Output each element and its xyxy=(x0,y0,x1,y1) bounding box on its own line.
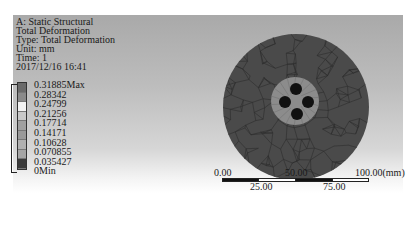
mesh-edge xyxy=(232,64,233,65)
mesh-edge xyxy=(364,70,368,83)
hole-top[interactable] xyxy=(290,83,302,95)
mesh-edge xyxy=(221,128,226,135)
mesh-edge xyxy=(363,68,364,69)
mesh-edge xyxy=(257,36,262,41)
mesh-edge xyxy=(370,116,371,124)
mesh-edge xyxy=(219,113,221,128)
mesh-edge xyxy=(233,52,240,62)
mesh-edge xyxy=(232,61,233,64)
mesh-edge xyxy=(371,108,374,116)
mesh-edge xyxy=(310,30,326,36)
scale-label-50: 50.00 xyxy=(285,168,308,178)
mesh-edge xyxy=(276,183,296,185)
mesh-edge xyxy=(372,108,375,109)
mesh-edge xyxy=(219,107,220,114)
scale-label-75: 75.00 xyxy=(323,182,346,192)
mesh-edge xyxy=(224,75,226,86)
mesh-edge xyxy=(359,142,364,148)
mesh-edge xyxy=(328,36,340,42)
mesh-edge xyxy=(232,149,233,153)
mesh-edge xyxy=(240,48,246,52)
mesh-edge xyxy=(250,167,255,173)
mesh-edge xyxy=(262,34,271,36)
mesh-edge xyxy=(322,176,331,177)
scale-label-25: 25.00 xyxy=(250,182,273,192)
mesh-edge xyxy=(219,100,220,107)
mesh-edge xyxy=(369,124,370,132)
mesh-edge xyxy=(364,132,369,142)
mesh-edge xyxy=(370,108,375,125)
hole-left[interactable] xyxy=(279,96,291,108)
scale-label-100: 100.00(mm) xyxy=(355,168,405,178)
scale-label-0: 0.00 xyxy=(214,168,232,178)
hole-right[interactable] xyxy=(302,96,314,108)
mesh-edge xyxy=(310,30,311,31)
hole-bottom[interactable] xyxy=(291,108,303,120)
